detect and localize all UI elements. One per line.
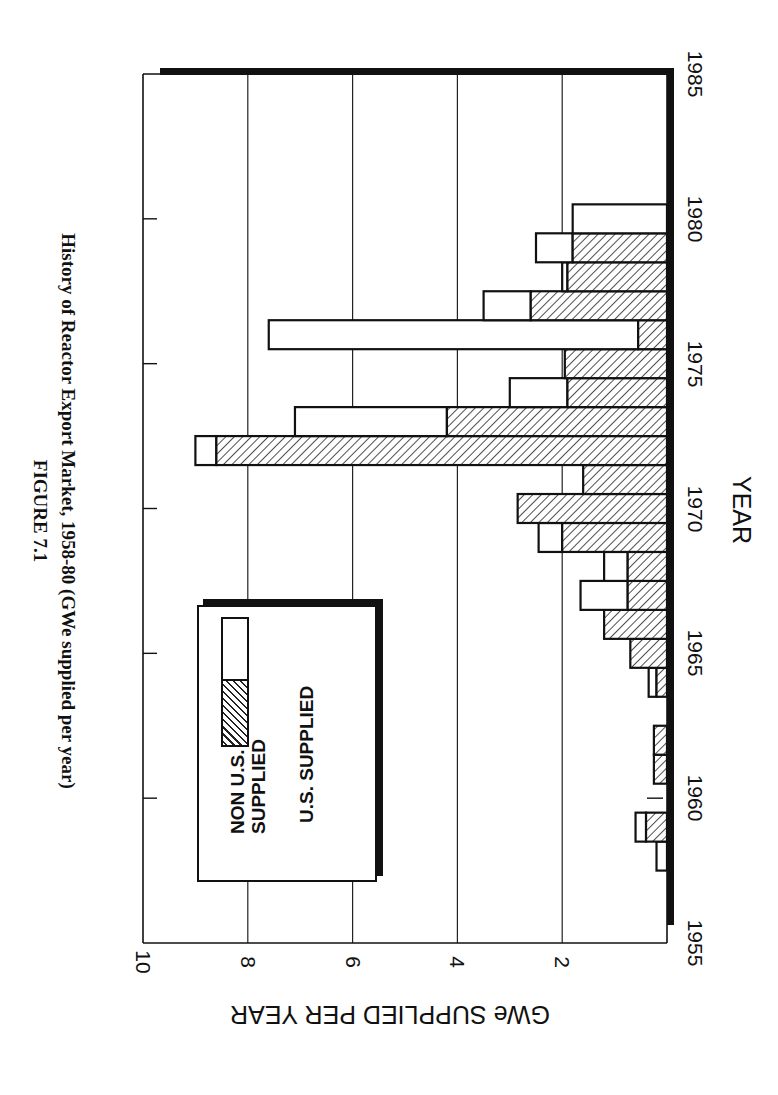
bar-1970 [518,494,667,523]
bar-segment-us [216,436,667,465]
bar-segment-non-us [636,813,646,842]
year-tick-label: 1970 [683,479,707,539]
bar-segment-non-us [269,320,638,349]
bar-segment-us [628,552,667,581]
value-tick-label: 6 [341,942,365,982]
value-tick-label: 2 [550,942,574,982]
bar-segment-us [638,320,667,349]
bar-segment-us [518,494,667,523]
bar-segment-us [447,407,667,436]
bar-segment-us [604,610,667,639]
bar-segment-us [567,262,667,291]
bar-1967 [581,581,667,610]
bar-segment-us [654,726,667,755]
bar-segment-non-us [510,378,568,407]
bar-segment-non-us [539,523,563,552]
year-tick-label: 1985 [683,44,707,104]
bar-segment-us [583,465,667,494]
bar-segment-us [565,349,667,378]
bar-1972 [195,436,667,465]
bar-segment-us [654,755,667,784]
bar-1980 [573,204,667,233]
bar-segment-non-us [604,552,628,581]
legend: NON U.S. SUPPLIED U.S. SUPPLIED [197,605,377,882]
bar-1965 [630,639,667,668]
bar-1975 [565,349,667,378]
bar-segment-us [657,668,667,697]
bar-1966 [604,610,667,639]
bar-segment-non-us [649,668,657,697]
bar-segment-us [628,581,667,610]
bar-segment-non-us [295,407,447,436]
year-tick-label: 1965 [683,623,707,683]
bar-1976 [269,320,667,349]
bar-1973 [295,407,667,436]
bar-1978 [562,262,667,291]
year-tick-label: 1975 [683,334,707,394]
value-tick-label: 4 [445,942,469,982]
year-tick-label: 1955 [683,913,707,973]
bar-1977 [484,291,667,320]
bar-segment-non-us [536,233,573,262]
legend-label-us: U.S. SUPPLIED [296,603,318,823]
year-axis-title: YEAR [727,470,757,550]
bar-segment-us [567,378,667,407]
bar-segment-non-us [484,291,531,320]
bar-1962 [654,726,667,755]
value-tick-label: 8 [236,942,260,982]
bar-segment-non-us [581,581,628,610]
bar-1961 [654,755,667,784]
value-tick-label: 10 [131,942,155,982]
bar-segment-us [646,813,667,842]
chart-plot [0,0,778,1095]
bar-1979 [536,233,667,262]
year-tick-label: 1980 [683,189,707,249]
legend-label-non-us: NON U.S. SUPPLIED [227,614,271,834]
bar-segment-us [630,639,667,668]
bar-1958 [657,842,667,871]
year-tick-label: 1960 [683,768,707,828]
bar-segment-non-us [657,842,667,871]
bar-1968 [604,552,667,581]
bar-segment-non-us [195,436,216,465]
bar-1974 [510,378,667,407]
bar-segment-non-us [573,204,667,233]
bar-1959 [636,813,667,842]
bar-segment-us [573,233,667,262]
bar-1964 [649,668,667,697]
bar-1969 [539,523,667,552]
value-axis-title: GWe SUPPLIED PER YEAR [110,1000,670,1029]
bar-segment-us [531,291,667,320]
bar-segment-us [562,523,667,552]
bar-1971 [583,465,667,494]
